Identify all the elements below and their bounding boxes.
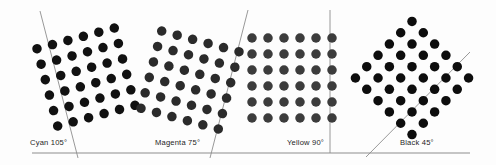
halftone-dot: [156, 25, 168, 37]
halftone-dot: [279, 113, 289, 123]
halftone-dot: [63, 101, 75, 113]
halftone-dot: [121, 69, 133, 81]
halftone-dot: [295, 113, 305, 123]
halftone-dot: [93, 26, 105, 38]
halftone-dot: [327, 81, 337, 91]
halftone-dot: [51, 54, 63, 66]
halftone-dot: [212, 123, 224, 135]
halftone-dot: [159, 76, 171, 88]
halftone-dot: [108, 22, 120, 34]
halftone-dot: [279, 81, 289, 91]
halftone-dot: [263, 49, 273, 59]
halftone-dot: [263, 81, 273, 91]
halftone-dot: [279, 33, 289, 43]
halftone-dot: [405, 60, 418, 73]
halftone-dot: [371, 49, 384, 62]
halftone-dot: [405, 83, 418, 96]
halftone-dot: [451, 83, 464, 96]
halftone-dot: [66, 50, 78, 62]
halftone-dot: [247, 113, 257, 123]
halftone-dot: [428, 83, 441, 96]
halftone-dot: [202, 38, 214, 50]
halftone-dot: [263, 113, 273, 123]
halftone-dot: [31, 43, 43, 55]
halftone-dot: [209, 73, 221, 85]
halftone-dot: [394, 49, 407, 62]
halftone-dot: [383, 105, 396, 118]
halftone-dot: [151, 107, 163, 119]
halftone-dot: [383, 37, 396, 50]
halftone-dot: [439, 49, 452, 62]
halftone-dot: [451, 60, 464, 73]
halftone-dot: [439, 94, 452, 107]
halftone-dot: [48, 105, 60, 117]
halftone-dot: [360, 83, 373, 96]
halftone-dot: [394, 71, 407, 84]
halftone-dot: [52, 120, 64, 132]
halftone-dot: [311, 33, 321, 43]
halftone-dot: [75, 81, 87, 93]
halftone-dot: [182, 115, 194, 127]
dot-grid-yellow: [247, 33, 337, 123]
halftone-dot: [417, 26, 430, 39]
halftone-dot: [405, 15, 418, 28]
halftone-dot: [114, 104, 126, 116]
halftone-dot: [143, 72, 155, 84]
halftone-dot: [295, 97, 305, 107]
halftone-dot: [327, 97, 337, 107]
halftone-dot: [279, 49, 289, 59]
halftone-dot: [247, 33, 257, 43]
halftone-dot: [311, 81, 321, 91]
halftone-dot: [229, 61, 241, 73]
halftone-dot: [417, 117, 430, 130]
panel-label-magenta: Magenta 75°: [155, 139, 200, 147]
halftone-dot: [327, 65, 337, 75]
halftone-dot: [327, 113, 337, 123]
halftone-dot: [55, 70, 67, 82]
angle-line-cyan: [40, 11, 78, 158]
halftone-dot: [295, 49, 305, 59]
halftone-dot: [166, 111, 178, 123]
halftone-dot: [247, 81, 257, 91]
dot-grid-cyan: [31, 22, 141, 132]
halftone-dot: [247, 49, 257, 59]
halftone-dot: [214, 57, 226, 69]
halftone-dot: [279, 97, 289, 107]
panel-label-yellow: Yellow 90°: [287, 139, 324, 147]
halftone-dot: [218, 42, 230, 54]
halftone-dot: [405, 105, 418, 118]
halftone-angles-figure: Cyan 105° Magenta 75° Yellow 90° Black 4…: [0, 0, 496, 165]
halftone-dot: [97, 42, 109, 54]
halftone-dot: [148, 56, 160, 68]
halftone-dot: [279, 65, 289, 75]
halftone-dot: [62, 35, 74, 47]
halftone-dot: [67, 116, 79, 128]
halftone-dot: [295, 81, 305, 91]
halftone-dot: [59, 85, 71, 97]
halftone-dot: [371, 71, 384, 84]
halftone-dot: [139, 87, 151, 99]
halftone-dot: [101, 57, 113, 69]
halftone-dot: [225, 77, 237, 89]
halftone-dot: [417, 49, 430, 62]
dot-grid-black: [349, 15, 476, 142]
halftone-dot: [428, 37, 441, 50]
halftone-dot: [186, 99, 198, 111]
halftone-dot: [394, 94, 407, 107]
halftone-dot: [155, 91, 167, 103]
halftone-dot: [179, 64, 191, 76]
halftone-dot: [311, 97, 321, 107]
halftone-dot: [39, 74, 51, 86]
halftone-dot: [105, 73, 117, 85]
halftone-dot-grids: [31, 15, 475, 142]
halftone-dot: [79, 96, 91, 108]
panel-label-black: Black 45°: [400, 139, 434, 147]
halftone-dot: [394, 26, 407, 39]
halftone-dot: [311, 65, 321, 75]
panel-label-cyan: Cyan 105°: [30, 139, 67, 147]
halftone-dot: [295, 33, 305, 43]
halftone-dot: [90, 77, 102, 89]
halftone-dot: [360, 60, 373, 73]
halftone-dot: [125, 84, 137, 96]
halftone-dot: [94, 92, 106, 104]
